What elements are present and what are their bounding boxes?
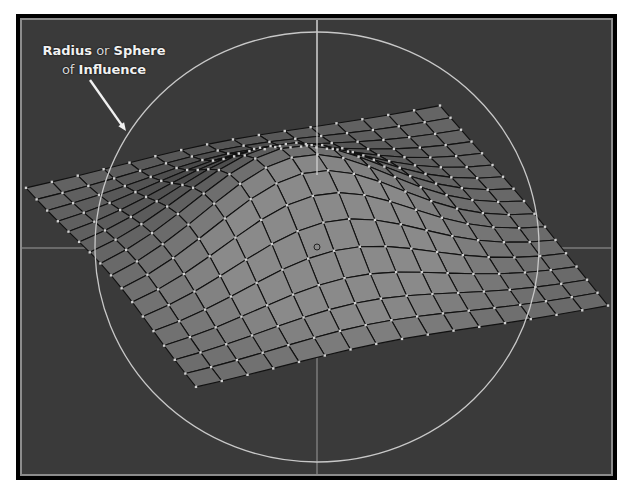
mesh-vertex bbox=[296, 230, 298, 232]
mesh-vertex bbox=[266, 304, 268, 306]
mesh-vertex bbox=[108, 202, 110, 204]
mesh-vertex bbox=[398, 167, 400, 169]
mesh-vertex bbox=[151, 232, 153, 234]
mesh-vertex bbox=[346, 132, 348, 134]
mesh-vertex bbox=[183, 273, 185, 275]
mesh-vertex bbox=[125, 249, 127, 251]
mesh-vertex bbox=[320, 135, 322, 137]
mesh-vertex bbox=[410, 247, 412, 249]
mesh-vertex bbox=[554, 239, 556, 241]
mesh-vertex bbox=[387, 114, 389, 116]
mesh-vertex bbox=[383, 165, 385, 167]
mesh-vertex bbox=[218, 169, 220, 171]
mesh-vertex bbox=[206, 143, 208, 145]
mesh-vertex bbox=[509, 289, 511, 291]
mesh-vertex bbox=[295, 142, 297, 144]
mesh-vertex bbox=[482, 212, 484, 214]
mesh-vertex bbox=[533, 213, 535, 215]
label-or: or bbox=[92, 43, 114, 58]
mesh-vertex bbox=[364, 324, 366, 326]
mesh-vertex bbox=[361, 118, 363, 120]
mesh-vertex bbox=[245, 258, 247, 260]
mesh-vertex bbox=[471, 199, 473, 201]
mesh-vertex bbox=[435, 182, 437, 184]
mesh-vertex bbox=[268, 141, 270, 143]
mesh-vertex bbox=[279, 145, 281, 147]
mesh-vertex bbox=[367, 148, 369, 150]
annotation-label-line1: Radius or Sphere bbox=[39, 41, 169, 60]
scene-canvas[interactable] bbox=[20, 18, 613, 476]
mesh-vertex bbox=[286, 204, 288, 206]
mesh-vertex bbox=[174, 359, 176, 361]
mesh-vertex bbox=[259, 147, 261, 149]
mesh-vertex bbox=[98, 194, 100, 196]
mesh-vertex bbox=[313, 337, 315, 339]
mesh-vertex bbox=[372, 129, 374, 131]
mesh-vertex bbox=[186, 169, 188, 171]
mesh-vertex bbox=[374, 219, 376, 221]
mesh-vertex bbox=[99, 262, 101, 264]
mesh-vertex bbox=[232, 138, 234, 140]
mesh-vertex bbox=[240, 315, 242, 317]
mesh-vertex bbox=[249, 198, 251, 200]
mesh-vertex bbox=[452, 329, 454, 331]
mesh-vertex bbox=[430, 200, 432, 202]
mesh-vertex bbox=[57, 220, 59, 222]
mesh-vertex bbox=[421, 271, 423, 273]
mesh-vertex bbox=[373, 159, 375, 161]
mesh-vertex bbox=[263, 148, 265, 150]
mesh-vertex bbox=[343, 277, 345, 279]
mesh-vertex bbox=[341, 147, 343, 149]
mesh-vertex bbox=[87, 185, 89, 187]
mesh-vertex bbox=[523, 200, 525, 202]
mesh-vertex bbox=[491, 164, 493, 166]
mesh-vertex bbox=[393, 148, 395, 150]
mesh-vertex bbox=[242, 144, 244, 146]
mesh-vertex bbox=[254, 157, 256, 159]
mesh-vertex bbox=[415, 209, 417, 211]
mesh-vertex bbox=[171, 182, 173, 184]
mesh-vertex bbox=[544, 226, 546, 228]
mesh-vertex bbox=[455, 155, 457, 157]
mesh-vertex bbox=[309, 126, 311, 128]
mesh-vertex bbox=[134, 191, 136, 193]
mesh-vertex bbox=[545, 300, 547, 302]
mesh-vertex bbox=[149, 176, 151, 178]
mesh-vertex bbox=[274, 146, 276, 148]
mesh-vertex bbox=[305, 143, 307, 145]
mesh-vertex bbox=[255, 282, 257, 284]
mesh-vertex bbox=[478, 326, 480, 328]
mesh-vertex bbox=[230, 295, 232, 297]
mesh-vertex bbox=[550, 269, 552, 271]
mesh-vertex bbox=[67, 230, 69, 232]
mesh-vertex bbox=[228, 173, 230, 175]
3d-viewport[interactable] bbox=[20, 18, 613, 476]
mesh-vertex bbox=[425, 229, 427, 231]
mesh-vertex bbox=[382, 139, 384, 141]
mesh-vertex bbox=[461, 187, 463, 189]
mesh-vertex bbox=[246, 374, 248, 376]
mesh-vertex bbox=[337, 191, 339, 193]
mesh-vertex bbox=[175, 167, 177, 169]
mesh-vertex bbox=[339, 330, 341, 332]
mesh-vertex bbox=[216, 149, 218, 151]
mesh-vertex bbox=[307, 257, 309, 259]
mesh-vertex bbox=[221, 380, 223, 382]
mesh-vertex bbox=[239, 183, 241, 185]
mesh-vertex bbox=[483, 290, 485, 292]
mesh-vertex bbox=[444, 144, 446, 146]
label-radius: Radius bbox=[42, 43, 92, 58]
mesh-vertex bbox=[349, 348, 351, 350]
mesh-vertex bbox=[181, 184, 183, 186]
mesh-vertex bbox=[384, 245, 386, 247]
mesh-vertex bbox=[413, 109, 415, 111]
mesh-vertex bbox=[294, 138, 296, 140]
mesh-vertex bbox=[131, 301, 133, 303]
mesh-vertex bbox=[401, 338, 403, 340]
mesh-vertex bbox=[357, 155, 359, 157]
mesh-vertex bbox=[139, 170, 141, 172]
mesh-vertex bbox=[342, 157, 344, 159]
mesh-vertex bbox=[442, 312, 444, 314]
mesh-vertex bbox=[581, 309, 583, 311]
mesh-vertex bbox=[419, 146, 421, 148]
